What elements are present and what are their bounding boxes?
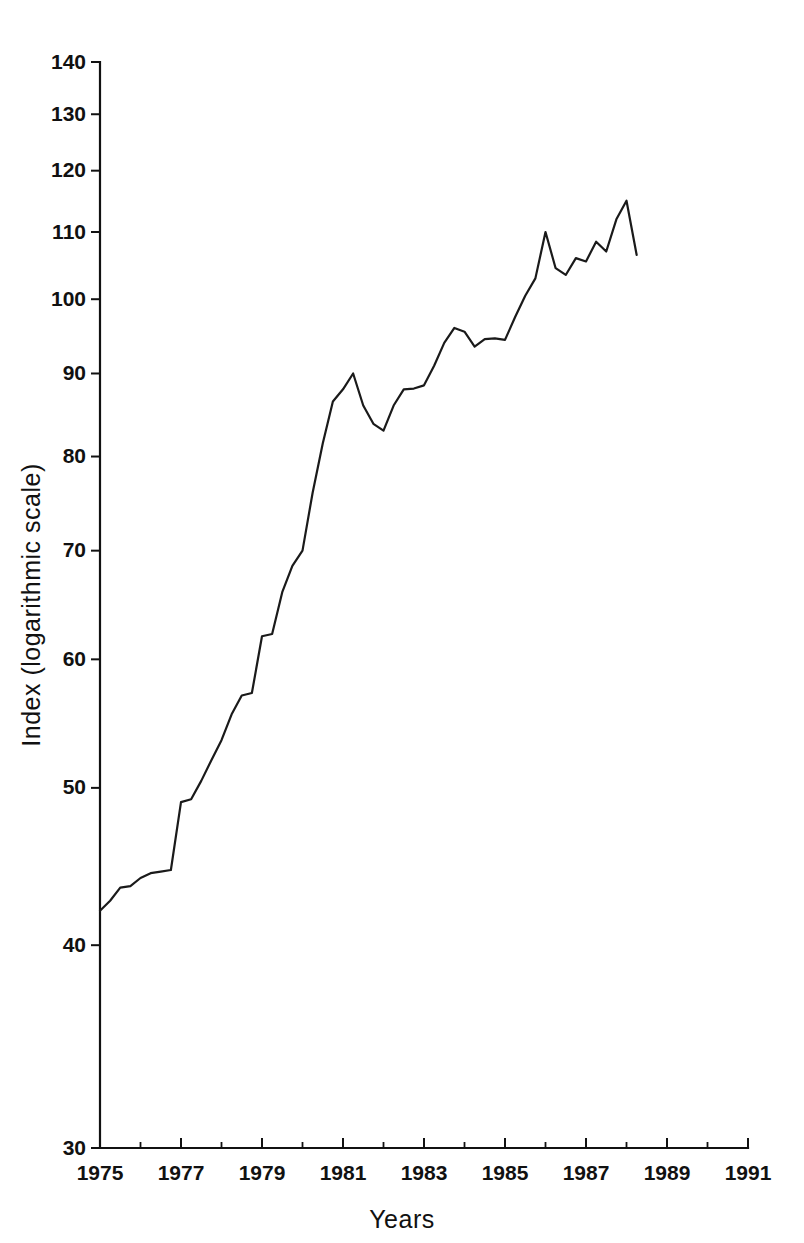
x-tick-label-1987: 1987 bbox=[563, 1161, 610, 1184]
x-axis-tick-labels: 197519771979198119831985198719891991 bbox=[77, 1161, 772, 1184]
y-tick-label-80: 80 bbox=[63, 444, 86, 467]
data-series-group bbox=[100, 201, 637, 911]
y-tick-label-30: 30 bbox=[63, 1136, 86, 1159]
x-tick-label-1989: 1989 bbox=[644, 1161, 691, 1184]
chart-figure: 30405060708090100110120130140 1975197719… bbox=[0, 0, 804, 1243]
y-tick-label-100: 100 bbox=[51, 287, 86, 310]
x-tick-label-1975: 1975 bbox=[77, 1161, 124, 1184]
data-line-index bbox=[100, 201, 637, 911]
y-axis-title: Index (logarithmic scale) bbox=[17, 463, 45, 746]
y-tick-label-140: 140 bbox=[51, 50, 86, 73]
x-tick-label-1977: 1977 bbox=[158, 1161, 205, 1184]
y-tick-label-120: 120 bbox=[51, 158, 86, 181]
y-tick-label-130: 130 bbox=[51, 102, 86, 125]
x-axis-title: Years bbox=[369, 1205, 435, 1233]
y-axis-ticks bbox=[91, 62, 100, 1148]
x-axis-ticks bbox=[100, 1138, 748, 1148]
x-tick-label-1985: 1985 bbox=[482, 1161, 529, 1184]
y-axis: 30405060708090100110120130140 bbox=[51, 50, 100, 1159]
y-tick-label-110: 110 bbox=[52, 220, 86, 243]
x-tick-label-1991: 1991 bbox=[725, 1161, 772, 1184]
line-chart: 30405060708090100110120130140 1975197719… bbox=[0, 0, 804, 1243]
x-axis: 197519771979198119831985198719891991 bbox=[77, 1138, 772, 1184]
y-tick-label-60: 60 bbox=[63, 647, 86, 670]
y-tick-label-40: 40 bbox=[63, 933, 86, 956]
x-tick-label-1981: 1981 bbox=[320, 1161, 367, 1184]
y-tick-label-70: 70 bbox=[63, 538, 86, 561]
y-tick-label-50: 50 bbox=[63, 775, 86, 798]
y-tick-label-90: 90 bbox=[63, 361, 86, 384]
x-tick-label-1983: 1983 bbox=[401, 1161, 448, 1184]
y-axis-tick-labels: 30405060708090100110120130140 bbox=[51, 50, 86, 1159]
x-tick-label-1979: 1979 bbox=[239, 1161, 286, 1184]
